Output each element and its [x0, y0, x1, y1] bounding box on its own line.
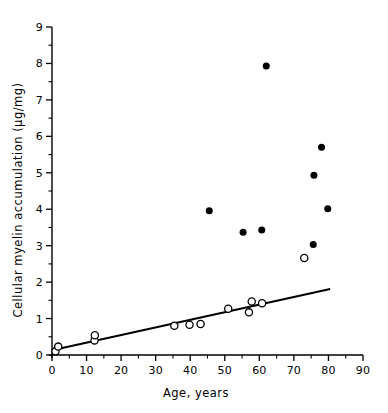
y-tick-label: 2: [36, 276, 43, 289]
x-tick-label: 10: [79, 364, 93, 377]
data-point-filled: [310, 172, 317, 179]
y-axis-label: Cellular myelin accumulation (µg/mg): [11, 82, 25, 317]
x-tick-label: 20: [114, 364, 128, 377]
y-tick-label: 9: [36, 21, 43, 34]
data-point-filled: [324, 205, 331, 212]
data-point-open: [197, 320, 204, 327]
y-axis-ticks: [46, 27, 52, 355]
y-tick-label: 7: [36, 94, 43, 107]
x-axis-tick-labels: 0102030405060708090: [48, 364, 370, 377]
y-tick-label: 1: [36, 313, 43, 326]
y-axis-tick-labels: 0123456789: [36, 21, 43, 362]
data-point-open: [225, 305, 232, 312]
y-tick-label: 3: [36, 240, 43, 253]
x-tick-label: 0: [48, 364, 55, 377]
data-point-open: [258, 300, 265, 307]
data-point-filled: [310, 241, 317, 248]
data-point-filled: [206, 207, 213, 214]
data-point-filled: [318, 144, 325, 151]
data-point-open: [245, 309, 252, 316]
x-tick-label: 80: [321, 364, 335, 377]
y-tick-label: 6: [36, 130, 43, 143]
data-point-open: [301, 254, 308, 261]
data-point-open: [248, 298, 255, 305]
axes: [49, 27, 363, 358]
x-tick-label: 70: [287, 364, 301, 377]
x-tick-label: 90: [356, 364, 370, 377]
x-tick-label: 50: [218, 364, 232, 377]
data-point-open: [171, 322, 178, 329]
x-tick-label: 60: [252, 364, 266, 377]
data-point-filled: [240, 229, 247, 236]
series-filled-circles: [206, 62, 332, 248]
data-point-open: [91, 332, 98, 339]
chart-figure: 0123456789 0102030405060708090 Age, year…: [0, 0, 388, 413]
x-tick-label: 40: [183, 364, 197, 377]
y-tick-label: 5: [36, 167, 43, 180]
x-axis-label: Age, years: [163, 386, 229, 400]
series-open-circles: [52, 254, 308, 354]
x-axis-ticks: [52, 355, 363, 361]
y-tick-label: 8: [36, 57, 43, 70]
data-point-filled: [263, 62, 270, 69]
data-point-open: [55, 343, 62, 350]
data-point-filled: [258, 226, 265, 233]
y-tick-label: 0: [36, 349, 43, 362]
scatter-plot: 0123456789 0102030405060708090 Age, year…: [0, 0, 388, 413]
data-point-open: [186, 321, 193, 328]
y-tick-label: 4: [36, 203, 43, 216]
x-tick-label: 30: [148, 364, 162, 377]
